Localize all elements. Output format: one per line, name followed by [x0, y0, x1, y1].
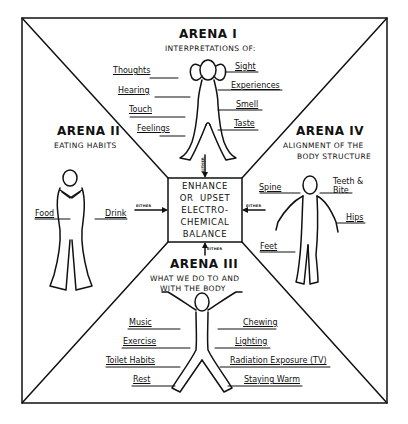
- arena1-label-feelings: Feelings: [137, 125, 170, 133]
- figure-arena4: [276, 176, 338, 284]
- center-line-2: OR UPSET: [168, 192, 242, 204]
- figure-arena2: [50, 170, 92, 290]
- arena2-label-drink: Drink: [105, 210, 126, 218]
- center-line-5: BALANCE: [168, 228, 242, 240]
- arena1-label-experiences: Experiences: [231, 82, 280, 90]
- arena1-title: ARENA I: [179, 28, 237, 40]
- arena3-label-radiation-exposure: Radiation Exposure (TV): [230, 357, 327, 365]
- arena4-label-teeth-bite-text: Teeth & Bite: [333, 177, 369, 195]
- center-line-3: ELECTRO-: [168, 204, 242, 216]
- arena1-label-thoughts: Thoughts: [113, 67, 150, 75]
- figure-arena3: [162, 292, 242, 392]
- either-label-bottom: EITHER: [207, 248, 222, 252]
- either-label-top: EITHER: [202, 157, 206, 172]
- center-label: ENHANCE OR UPSET ELECTRO- CHEMICAL BALAN…: [168, 178, 242, 241]
- either-label-right: EITHER: [246, 205, 261, 209]
- arena4-subtitle-line2: BODY STRUCTURE: [297, 152, 371, 162]
- arena3-label-staying-warm: Staying Warm: [244, 376, 300, 384]
- arena4-subtitle-line1: ALIGNMENT OF THE: [283, 141, 364, 151]
- arena3-title: ARENA III: [170, 258, 238, 270]
- arena2-label-food: Food: [35, 210, 54, 218]
- arena1-label-touch: Touch: [129, 106, 152, 114]
- arena4-label-teeth-bite: Teeth & Bite: [333, 177, 369, 195]
- arena4-label-spine: Spine: [259, 184, 281, 192]
- either-label-left: EITHER: [136, 205, 151, 209]
- arena4-label-hips: Hips: [346, 214, 363, 222]
- arena3-label-lighting: Lighting: [235, 338, 267, 346]
- arena4-label-feet: Feet: [260, 243, 277, 251]
- arena4-title: ARENA IV: [296, 125, 364, 137]
- arena3-label-toilet-habits: Toilet Habits: [106, 357, 155, 365]
- arena3-subtitle-line1: WHAT WE DO TO AND: [150, 274, 239, 284]
- arena1-label-sight: Sight: [235, 63, 256, 71]
- arena1-subtitle: INTERPRETATIONS OF:: [165, 44, 256, 54]
- arena3-subtitle-line2: WITH THE BODY: [160, 284, 226, 294]
- arena1-label-taste: Taste: [234, 120, 255, 128]
- center-line-4: CHEMICAL: [168, 216, 242, 228]
- arena2-subtitle: EATING HABITS: [54, 141, 117, 151]
- diagonal-top-left: [22, 18, 168, 178]
- arena1-label-smell: Smell: [236, 101, 258, 109]
- arena3-label-exercise: Exercise: [123, 338, 156, 346]
- arena3-label-rest: Rest: [133, 376, 150, 384]
- center-line-1: ENHANCE: [168, 180, 242, 192]
- arena3-label-music: Music: [129, 319, 152, 327]
- arena3-label-chewing: Chewing: [243, 319, 278, 327]
- arena2-title: ARENA II: [57, 125, 120, 137]
- arena1-label-hearing: Hearing: [118, 87, 150, 95]
